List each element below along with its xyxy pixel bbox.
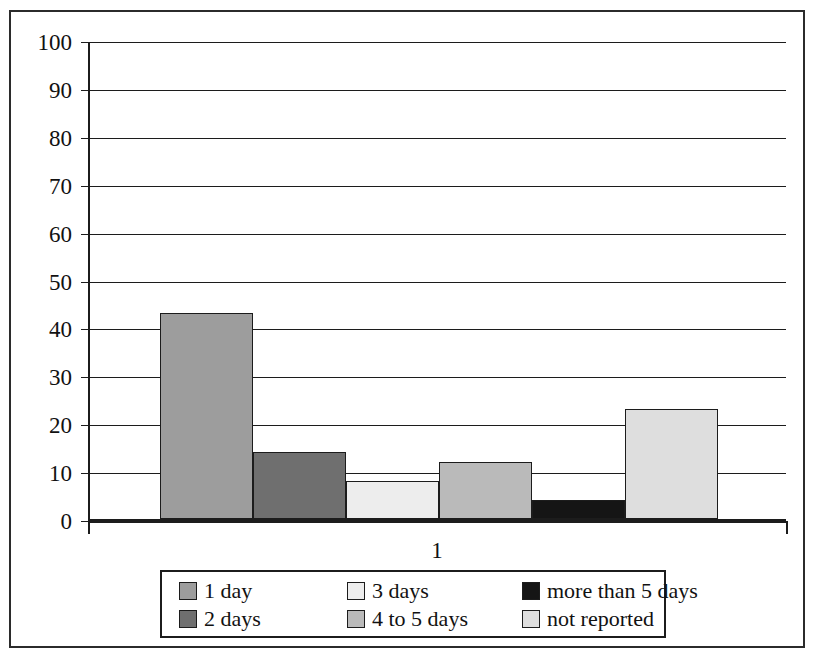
legend-label: 2 days <box>204 608 261 630</box>
y-tick-90 <box>81 90 90 91</box>
bar-more-than-5-days <box>532 500 625 519</box>
legend-swatch-icon <box>179 582 197 600</box>
y-tick-70 <box>81 186 90 187</box>
legend-entry-4-to-5-days: 4 to 5 days <box>347 608 522 630</box>
y-axis-tick-labels: 0102030405060708090100 <box>0 0 72 667</box>
x-axis-tick-label: 1 <box>397 539 477 562</box>
plot-area <box>88 42 786 521</box>
legend-label: 1 day <box>204 580 252 602</box>
legend-entry-1-day: 1 day <box>179 580 347 602</box>
y-tick-label-100: 100 <box>38 31 73 54</box>
bar-3-days <box>346 481 439 519</box>
gridline-80 <box>90 138 786 139</box>
y-tick-80 <box>81 138 90 139</box>
y-tick-10 <box>81 473 90 474</box>
gridline-90 <box>90 90 786 91</box>
y-tick-label-40: 40 <box>49 318 72 341</box>
gridline-60 <box>90 234 786 235</box>
y-tick-label-10: 10 <box>49 462 72 485</box>
y-tick-50 <box>81 282 90 283</box>
x-axis-tick-right <box>786 521 788 534</box>
y-tick-label-80: 80 <box>49 127 72 150</box>
legend-swatch-icon <box>522 582 540 600</box>
legend-label: 3 days <box>372 580 429 602</box>
legend-swatch-icon <box>347 582 365 600</box>
x-axis-line <box>88 521 786 523</box>
y-tick-60 <box>81 234 90 235</box>
legend-label: not reported <box>547 608 654 630</box>
legend-label: 4 to 5 days <box>372 608 468 630</box>
bar-not-reported <box>625 409 718 519</box>
legend-entry-2-days: 2 days <box>179 608 347 630</box>
y-tick-100 <box>81 42 90 43</box>
x-axis-tick-left <box>88 521 90 534</box>
y-tick-label-30: 30 <box>49 366 72 389</box>
legend-swatch-icon <box>522 610 540 628</box>
y-tick-40 <box>81 329 90 330</box>
bar-4-to-5-days <box>439 462 532 519</box>
bar-1-day <box>160 313 253 519</box>
y-tick-label-70: 70 <box>49 175 72 198</box>
bar-2-days <box>253 452 346 519</box>
legend-entry-3-days: 3 days <box>347 580 522 602</box>
gridline-50 <box>90 282 786 283</box>
legend-grid: 1 day3 daysmore than 5 days2 days4 to 5 … <box>162 577 664 633</box>
legend-entry-not-reported: not reported <box>522 608 698 630</box>
gridline-100 <box>90 42 786 43</box>
y-tick-label-0: 0 <box>61 510 73 533</box>
y-tick-label-50: 50 <box>49 271 72 294</box>
gridline-70 <box>90 186 786 187</box>
figure-container: 0102030405060708090100 1 1 day3 daysmore… <box>0 0 816 667</box>
legend-entry-more-than-5-days: more than 5 days <box>522 580 698 602</box>
legend-swatch-icon <box>347 610 365 628</box>
y-tick-label-60: 60 <box>49 223 72 246</box>
y-tick-label-20: 20 <box>49 414 72 437</box>
y-tick-20 <box>81 425 90 426</box>
legend-label: more than 5 days <box>547 580 698 602</box>
legend-box: 1 day3 daysmore than 5 days2 days4 to 5 … <box>160 570 666 638</box>
y-tick-30 <box>81 377 90 378</box>
y-tick-label-90: 90 <box>49 79 72 102</box>
legend-swatch-icon <box>179 610 197 628</box>
